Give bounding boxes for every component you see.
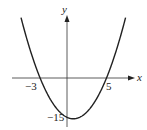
y-intercept-label-neg15: −15 xyxy=(47,111,65,123)
x-intercept-label-neg3: −3 xyxy=(25,80,37,92)
x-intercept-label-5: 5 xyxy=(106,80,112,92)
x-axis-arrow-icon xyxy=(128,76,135,81)
y-axis-arrow-icon xyxy=(65,15,70,22)
parabola-graph: y x −3 5 −15 xyxy=(0,0,147,130)
y-axis-label: y xyxy=(61,3,67,15)
x-axis-label: x xyxy=(136,71,142,83)
parabola-curve xyxy=(21,18,126,119)
